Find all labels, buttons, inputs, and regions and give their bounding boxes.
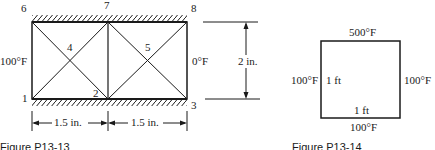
node-label-3: 3	[191, 100, 197, 111]
height-dimension-label: 2 in.	[238, 56, 258, 67]
node-label-1: 1	[22, 93, 28, 104]
node-label-5: 5	[145, 42, 151, 53]
node-label-2: 2	[93, 88, 99, 99]
right-boundary-temp: 0°F	[192, 56, 208, 67]
node-label-7: 7	[104, 0, 110, 11]
node-label-8: 8	[191, 3, 197, 14]
width-dimension-left-label: 1.5 in.	[54, 117, 82, 128]
left-boundary-temp-plate: 100°F	[291, 75, 318, 86]
finite-element-mesh	[32, 22, 187, 99]
figure-caption-right: Figure P13-14	[292, 141, 362, 150]
left-boundary-temp: 100°F	[0, 56, 27, 67]
right-boundary-temp-plate: 100°F	[404, 75, 431, 86]
bottom-insulation-hatch	[32, 99, 187, 106]
node-label-6: 6	[21, 3, 27, 14]
node-label-4: 4	[67, 42, 73, 53]
side-dimension-label: 1 ft	[326, 75, 341, 86]
top-boundary-temp: 500°F	[349, 27, 376, 38]
top-insulation-hatch	[32, 15, 187, 22]
figure-caption-left: Figure P13-13	[0, 141, 70, 150]
width-dimension-right-label: 1.5 in.	[131, 117, 159, 128]
bottom-dimension-label: 1 ft	[354, 105, 369, 116]
bottom-boundary-temp: 100°F	[350, 122, 377, 133]
